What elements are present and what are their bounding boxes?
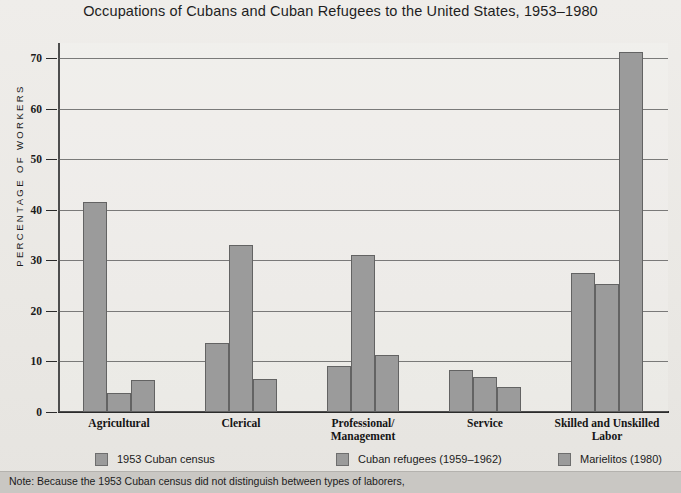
gridline	[58, 210, 668, 211]
legend-swatch	[336, 453, 349, 466]
legend-item: Marielitos (1980)	[558, 449, 662, 469]
category-label-line: Agricultural	[48, 417, 190, 430]
y-tick-mark	[46, 210, 57, 211]
y-tick-mark	[46, 109, 57, 110]
bar	[83, 202, 107, 412]
y-tick-label: 20	[8, 305, 42, 317]
bar	[205, 343, 229, 412]
y-tick-label: 0	[8, 406, 42, 418]
bar	[595, 284, 619, 412]
category-label-line: Clerical	[170, 417, 312, 430]
bar	[473, 377, 497, 412]
legend-label: Marielitos (1980)	[580, 453, 662, 465]
legend-swatch	[95, 453, 108, 466]
category-label-line: Management	[292, 430, 434, 443]
category-label-line: Service	[414, 417, 556, 430]
note-text: Note: Because the 1953 Cuban census did …	[9, 475, 405, 487]
bar	[375, 355, 399, 412]
bar	[571, 273, 595, 413]
category-label: Service	[414, 417, 556, 430]
gridline	[58, 109, 668, 110]
bar	[253, 379, 277, 412]
note-bar: Note: Because the 1953 Cuban census did …	[0, 471, 681, 493]
y-tick-label: 10	[8, 355, 42, 367]
legend-label: 1953 Cuban census	[117, 453, 215, 465]
legend-item: 1953 Cuban census	[95, 449, 215, 469]
legend-swatch	[558, 453, 571, 466]
y-tick-mark	[46, 412, 57, 413]
y-tick-mark	[46, 58, 57, 59]
category-label-line: Skilled and Unskilled	[536, 417, 678, 430]
legend-item: Cuban refugees (1959–1962)	[336, 449, 502, 469]
y-tick-mark	[46, 361, 57, 362]
plot-area	[58, 43, 668, 412]
bar	[131, 380, 155, 412]
bar	[229, 245, 253, 412]
category-label: Agricultural	[48, 417, 190, 430]
bar	[107, 393, 131, 412]
category-label: Skilled and UnskilledLabor	[536, 417, 678, 443]
legend-label: Cuban refugees (1959–1962)	[358, 453, 502, 465]
category-label-line: Labor	[536, 430, 678, 443]
gridline	[58, 58, 668, 59]
chart-title: Occupations of Cubans and Cuban Refugees…	[0, 3, 681, 19]
category-label: Clerical	[170, 417, 312, 430]
y-axis-title: PERCENTAGE OF WORKERS	[14, 61, 25, 291]
bar	[327, 366, 351, 413]
bar	[449, 370, 473, 412]
chart-legend: 1953 Cuban censusCuban refugees (1959–19…	[58, 449, 668, 471]
bar	[497, 387, 521, 412]
y-tick-mark	[46, 159, 57, 160]
y-tick-mark	[46, 260, 57, 261]
category-label: Professional/Management	[292, 417, 434, 443]
category-label-line: Professional/	[292, 417, 434, 430]
y-tick-mark	[46, 311, 57, 312]
gridline	[58, 159, 668, 160]
bar	[351, 255, 375, 412]
bar	[619, 52, 643, 412]
